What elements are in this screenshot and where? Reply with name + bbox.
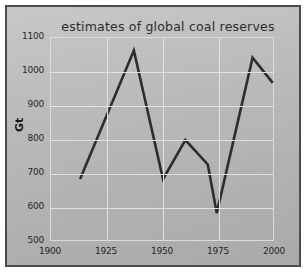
y-tick-label: 800 bbox=[27, 133, 44, 143]
y-tick-label: 500 bbox=[27, 235, 44, 245]
x-tick-label: 2000 bbox=[263, 246, 285, 256]
x-tick-label: 1900 bbox=[39, 246, 61, 256]
gridline-horizontal bbox=[51, 208, 273, 209]
y-tick-label: 900 bbox=[27, 99, 44, 109]
x-axis-tick-labels: 19001925195019752000 bbox=[7, 246, 303, 262]
gridline-horizontal bbox=[51, 140, 273, 141]
gridline-vertical bbox=[107, 38, 108, 240]
chart-title: estimates of global coal reserves bbox=[55, 19, 281, 34]
gridline-vertical bbox=[219, 38, 220, 240]
y-tick-label: 700 bbox=[27, 167, 44, 177]
x-tick-label: 1925 bbox=[95, 246, 117, 256]
series-polyline bbox=[80, 51, 273, 214]
plot-area bbox=[50, 37, 274, 241]
x-tick-label: 1950 bbox=[151, 246, 173, 256]
gridline-horizontal bbox=[51, 174, 273, 175]
y-axis-tick-labels: 50060070080090010001100 bbox=[7, 37, 48, 241]
chart-figure: estimates of global coal reserves Gt 500… bbox=[5, 5, 301, 267]
gridline-vertical bbox=[163, 38, 164, 240]
y-tick-label: 600 bbox=[27, 201, 44, 211]
gridline-horizontal bbox=[51, 106, 273, 107]
x-tick-label: 1975 bbox=[207, 246, 229, 256]
figure-page: estimates of global coal reserves Gt 500… bbox=[0, 0, 306, 272]
gridline-horizontal bbox=[51, 72, 273, 73]
y-tick-label: 1000 bbox=[22, 65, 44, 75]
y-tick-label: 1100 bbox=[22, 31, 44, 41]
